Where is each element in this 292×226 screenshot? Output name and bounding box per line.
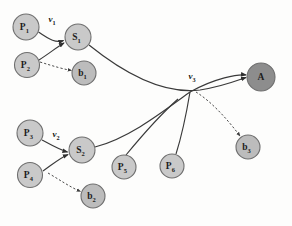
node-P5[interactable]: P5 — [112, 155, 136, 179]
nodes-layer: P1P2S1b1P3P4S2b2P5P6b3A — [13, 14, 275, 208]
edge-P1-S1 — [39, 32, 64, 41]
edges-layer — [39, 32, 247, 192]
edge-S2-A — [95, 75, 246, 147]
edge-P4-S2 — [43, 155, 68, 172]
node-P3[interactable]: P3 — [17, 120, 43, 146]
edge-S1-A — [89, 45, 246, 91]
node-b2[interactable]: b2 — [81, 184, 105, 208]
node-b3[interactable]: b3 — [236, 135, 260, 159]
edge-conv-b3 — [196, 92, 240, 136]
node-P2[interactable]: P2 — [15, 53, 40, 78]
edge-label-v1: v1 — [48, 14, 55, 25]
node-b1[interactable]: b1 — [72, 61, 96, 85]
node-S1[interactable]: S1 — [65, 24, 91, 50]
edge-label-v2: v2 — [52, 129, 59, 140]
diagram-canvas: P1P2S1b1P3P4S2b2P5P6b3A v1v2v3 — [0, 0, 292, 226]
node-A[interactable]: A — [247, 63, 275, 91]
node-P1[interactable]: P1 — [13, 14, 39, 40]
node-P6[interactable]: P6 — [160, 154, 184, 178]
node-label-A: A — [258, 72, 265, 82]
node-S2[interactable]: S2 — [69, 137, 95, 163]
graph-diagram: P1P2S1b1P3P4S2b2P5P6b3A v1v2v3 — [0, 0, 292, 226]
edge-P3-S2 — [42, 140, 68, 152]
node-P4[interactable]: P4 — [18, 163, 43, 188]
edge-label-v3: v3 — [188, 71, 195, 82]
edge-S1-b1 — [40, 62, 72, 71]
edge-P2-S1 — [39, 43, 64, 60]
edge-S2-b2 — [48, 173, 81, 192]
edge-P5-A — [126, 99, 178, 155]
